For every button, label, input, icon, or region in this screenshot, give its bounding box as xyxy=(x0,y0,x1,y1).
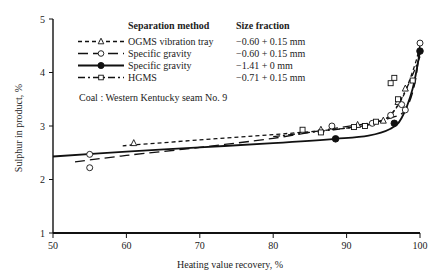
legend-size-label: −1.41 + 0 mm xyxy=(236,60,293,71)
square-marker-icon xyxy=(351,125,356,130)
legend-method-label: Specific gravity xyxy=(128,48,192,59)
square-marker-icon xyxy=(388,81,393,86)
open-circle-marker-icon xyxy=(329,123,335,129)
open-circle-marker-icon xyxy=(87,165,93,171)
legend-entry: Specific gravity−1.41 + 0 mm xyxy=(78,60,293,71)
y-tick-label: 5 xyxy=(40,14,45,25)
x-axis-label: Heating value recovery, % xyxy=(177,259,283,270)
x-tick-label: 100 xyxy=(413,240,428,251)
x-tick-label: 90 xyxy=(342,240,352,251)
y-tick-label: 1 xyxy=(40,228,45,239)
legend: Separation method Size fraction OGMS vib… xyxy=(78,20,306,103)
x-tick-label: 80 xyxy=(268,240,278,251)
x-tick-label: 70 xyxy=(195,240,205,251)
legend-method-label: HGMS xyxy=(128,72,157,83)
legend-header-method: Separation method xyxy=(128,20,210,31)
y-tick-label: 3 xyxy=(40,121,45,132)
y-tick-label: 4 xyxy=(40,67,45,78)
legend-size-label: −0.60 + 0.15 mm xyxy=(236,36,306,47)
legend-size-label: −0.60 + 0.15 mm xyxy=(236,48,306,59)
open-circle-marker-icon xyxy=(87,151,93,157)
legend-entry: Specific gravity−0.60 + 0.15 mm xyxy=(78,48,306,59)
legend-entry: OGMS vibration tray−0.60 + 0.15 mm xyxy=(78,36,306,47)
legend-method-label: Specific gravity xyxy=(128,60,192,71)
legend-header-size: Size fraction xyxy=(236,20,290,31)
open-circle-marker-icon xyxy=(399,102,405,108)
legend-entries: OGMS vibration tray−0.60 + 0.15 mmSpecif… xyxy=(78,36,306,83)
legend-entry: HGMS−0.71 + 0.15 mm xyxy=(78,72,306,83)
triangle-marker-icon xyxy=(131,140,137,146)
filled-circle-marker-icon xyxy=(98,62,104,68)
square-marker-icon xyxy=(300,127,305,132)
legend-method-label: OGMS vibration tray xyxy=(128,36,214,47)
open-circle-marker-icon xyxy=(417,40,423,46)
open-circle-marker-icon xyxy=(402,107,408,113)
y-axis-label: Sulphur in product, % xyxy=(13,84,24,172)
square-marker-icon xyxy=(392,75,397,80)
square-marker-icon xyxy=(410,78,415,83)
filled-circle-marker-icon xyxy=(391,120,398,127)
square-marker-icon xyxy=(395,97,400,102)
square-marker-icon xyxy=(318,130,323,135)
chart-svg: 506070809010012345 Separation method Siz… xyxy=(0,0,444,276)
x-tick-label: 50 xyxy=(48,240,58,251)
square-marker-icon xyxy=(373,119,378,124)
y-tick-label: 2 xyxy=(40,174,45,185)
filled-circle-marker-icon xyxy=(417,48,424,55)
open-circle-marker-icon xyxy=(98,51,104,57)
open-circle-marker-icon xyxy=(388,112,394,118)
square-marker-icon xyxy=(99,75,104,80)
sulphur-vs-heating-value-chart: 506070809010012345 Separation method Siz… xyxy=(0,0,444,276)
axes: 506070809010012345 xyxy=(40,14,428,252)
x-tick-label: 60 xyxy=(121,240,131,251)
square-marker-icon xyxy=(362,124,367,129)
coal-annotation: Coal : Western Kentucky seam No. 9 xyxy=(79,92,227,103)
filled-circle-marker-icon xyxy=(332,136,339,143)
legend-size-label: −0.71 + 0.15 mm xyxy=(236,72,306,83)
